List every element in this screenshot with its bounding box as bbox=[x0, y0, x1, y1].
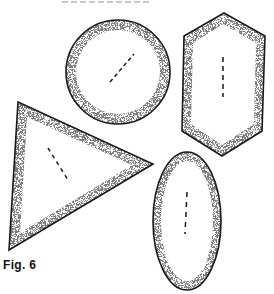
triangle-shape bbox=[9, 102, 153, 250]
figure-caption: Fig. 6 bbox=[3, 258, 36, 272]
ellipse-shape bbox=[153, 152, 221, 290]
circle-shape bbox=[66, 20, 170, 124]
hexagon-shape bbox=[182, 13, 265, 156]
figure-drawing bbox=[0, 0, 274, 294]
